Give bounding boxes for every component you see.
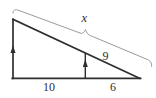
triangle-diagram: x 9 10 6: [0, 0, 156, 98]
middle-up-arrow-icon: [83, 59, 88, 67]
left-up-arrow-icon: [11, 45, 16, 53]
label-base-left-segment: 10: [43, 80, 55, 94]
label-hypotenuse-right-segment: 9: [103, 49, 109, 63]
label-base-right-segment: 6: [110, 80, 116, 94]
geometry-figure: x 9 10 6: [0, 0, 156, 98]
label-hypotenuse-total: x: [81, 11, 88, 25]
